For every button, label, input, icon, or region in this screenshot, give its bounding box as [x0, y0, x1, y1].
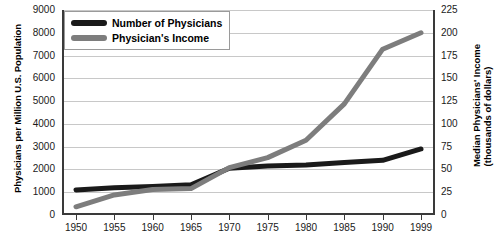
- y-axis-right-tick-label: 200: [441, 27, 481, 38]
- x-axis-tick-mark: [191, 215, 192, 220]
- y-axis-left-title: Physicians per Million U.S. Population: [12, 9, 23, 209]
- y-axis-right-tick-label: 150: [441, 72, 481, 83]
- y-axis-left-tick-label: 4000: [15, 118, 55, 129]
- x-axis-tick-mark: [306, 215, 307, 220]
- y-axis-left-tick-label: 2000: [15, 163, 55, 174]
- x-axis-tick-mark: [421, 215, 422, 220]
- legend-label: Number of Physicians: [112, 17, 222, 29]
- y-axis-right-tick-label: 100: [441, 118, 481, 129]
- legend: Number of PhysiciansPhysician's Income: [64, 11, 230, 50]
- x-axis-tick-label: 1999: [398, 222, 444, 233]
- legend-item: Physician's Income: [71, 30, 222, 45]
- y-axis-right-tick-label: 0: [441, 209, 481, 220]
- x-axis-tick-mark: [268, 215, 269, 220]
- legend-item: Number of Physicians: [71, 15, 222, 30]
- y-axis-left-tick-label: 3000: [15, 141, 55, 152]
- y-axis-right-tick-label: 175: [441, 50, 481, 61]
- x-axis-tick-mark: [344, 215, 345, 220]
- y-axis-right-tick-label: 50: [441, 163, 481, 174]
- x-axis-tick-mark: [383, 215, 384, 220]
- y-axis-left-tick-label: 6000: [15, 72, 55, 83]
- y-axis-right-tick-label: 25: [441, 186, 481, 197]
- y-axis-right-tick-label: 75: [441, 141, 481, 152]
- dual-axis-line-chart: Physicians per Million U.S. Population M…: [0, 0, 500, 247]
- y-axis-right-tick-label: 125: [441, 95, 481, 106]
- series-line: [76, 149, 421, 190]
- series-line: [76, 33, 421, 207]
- y-axis-right-tick-label: 225: [441, 4, 481, 15]
- legend-swatch: [71, 35, 107, 41]
- y-axis-left-tick-label: 0: [15, 209, 55, 220]
- y-axis-left-tick-label: 1000: [15, 186, 55, 197]
- x-axis-tick-mark: [153, 215, 154, 220]
- x-axis-tick-mark: [114, 215, 115, 220]
- y-axis-left-tick-label: 5000: [15, 95, 55, 106]
- x-axis-tick-mark: [76, 215, 77, 220]
- y-axis-left-tick-label: 8000: [15, 27, 55, 38]
- x-axis-tick-mark: [229, 215, 230, 220]
- y-axis-left-tick-label: 7000: [15, 50, 55, 61]
- y-axis-left-tick-label: 9000: [15, 4, 55, 15]
- legend-label: Physician's Income: [112, 32, 209, 44]
- y-axis-right-title-line2: (thousands of dollars): [482, 17, 493, 217]
- legend-swatch: [71, 20, 107, 26]
